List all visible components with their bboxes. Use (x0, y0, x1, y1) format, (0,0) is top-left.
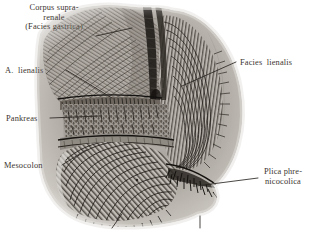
label-mesocolon: Mesocolon (4, 161, 43, 171)
label-plica-phrenicocolica: Plica phre- nicocolica (258, 167, 308, 186)
label-bottom-caption-clipped: Colon transversum Flexura coli sinistra (0, 232, 310, 241)
label-corpus-suprarenale: Corpus supra- renale (Facies gastrica) (4, 3, 104, 32)
label-facies-lienalis: Facies lienalis (240, 58, 292, 68)
anatomical-figure (0, 0, 310, 241)
label-pankreas: Pankreas (6, 114, 37, 124)
label-a-lienalis: A. lienalis (5, 66, 43, 76)
